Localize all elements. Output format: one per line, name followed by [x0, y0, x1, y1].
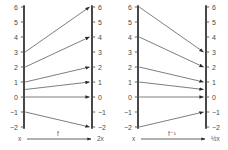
axis-tick-label: −1 [124, 109, 132, 116]
axis-tick-label: 5 [212, 19, 216, 26]
axis-tick-label: 3 [14, 49, 18, 56]
panel-inverse-function: 6543210−1−26543210−1−2xf⁻¹½x [114, 0, 228, 150]
mapping-arrow [25, 112, 89, 127]
axis-tick-label: 6 [128, 4, 132, 11]
relation-arrow-group: xf2x [18, 130, 105, 143]
axis-tick-label: 4 [212, 34, 216, 41]
axis-tick-label: −1 [212, 109, 220, 116]
right-number-line: 6543210−1−2 [206, 4, 220, 131]
left-number-line: 6543210−1−2 [10, 4, 24, 131]
range-label: 2x [97, 135, 105, 142]
mapping-arrows [25, 7, 89, 127]
domain-label: x [132, 135, 136, 142]
map-label: f⁻¹ [168, 130, 177, 137]
axis-tick-label: 4 [128, 34, 132, 41]
axis-tick-label: 0 [212, 94, 216, 101]
axis-tick-label: 1 [212, 79, 216, 86]
axis-tick-label: 3 [128, 49, 132, 56]
mapping-arrow [139, 112, 203, 127]
mapping-arrow [25, 67, 89, 82]
axis-tick-label: −2 [98, 124, 106, 131]
mapping-arrow [139, 67, 203, 82]
axis-tick-label: 5 [128, 19, 132, 26]
domain-label: x [18, 135, 22, 142]
axis-tick-label: 1 [128, 79, 132, 86]
axis-tick-label: 3 [212, 49, 216, 56]
mapping-arrow [139, 82, 203, 90]
axis-tick-label: 0 [98, 94, 102, 101]
right-number-line: 6543210−1−2 [92, 4, 106, 131]
mapping-arrow [25, 7, 89, 52]
axis-tick-label: 6 [212, 4, 216, 11]
panel-function-f: 6543210−1−26543210−1−2xf2x [0, 0, 114, 150]
axis-tick-label: 2 [212, 64, 216, 71]
mapping-arrow [25, 37, 89, 67]
axis-tick-label: −2 [10, 124, 18, 131]
axis-tick-label: −1 [10, 109, 18, 116]
panel-right-canvas: 6543210−1−26543210−1−2xf⁻¹½x [114, 0, 228, 150]
axis-tick-label: 4 [98, 34, 102, 41]
axis-tick-label: 1 [98, 79, 102, 86]
mapping-arrows [139, 7, 203, 127]
axis-tick-label: −1 [98, 109, 106, 116]
panel-right-svg: 6543210−1−26543210−1−2xf⁻¹½x [114, 0, 228, 150]
relation-arrow-group: xf⁻¹½x [132, 130, 220, 143]
axis-tick-label: 2 [98, 64, 102, 71]
axis-tick-label: −2 [124, 124, 132, 131]
axis-tick-label: 2 [14, 64, 18, 71]
axis-tick-label: −2 [212, 124, 220, 131]
axis-tick-label: 6 [98, 4, 102, 11]
panel-left-canvas: 6543210−1−26543210−1−2xf2x [0, 0, 114, 150]
mapping-arrow [25, 82, 89, 90]
mapping-diagram-figure: 6543210−1−26543210−1−2xf2x 6543210−1−265… [0, 0, 228, 150]
axis-tick-label: 1 [14, 79, 18, 86]
axis-tick-label: 0 [128, 94, 132, 101]
axis-tick-label: 6 [14, 4, 18, 11]
axis-tick-label: 5 [98, 19, 102, 26]
axis-tick-label: 2 [128, 64, 132, 71]
map-label: f [57, 130, 59, 137]
axis-tick-label: 0 [14, 94, 18, 101]
left-number-line: 6543210−1−2 [124, 4, 138, 131]
axis-tick-label: 5 [14, 19, 18, 26]
mapping-arrow [139, 37, 203, 67]
range-label: ½x [211, 135, 220, 142]
axis-tick-label: 4 [14, 34, 18, 41]
panel-left-svg: 6543210−1−26543210−1−2xf2x [0, 0, 114, 150]
mapping-arrow [139, 7, 203, 52]
axis-tick-label: 3 [98, 49, 102, 56]
